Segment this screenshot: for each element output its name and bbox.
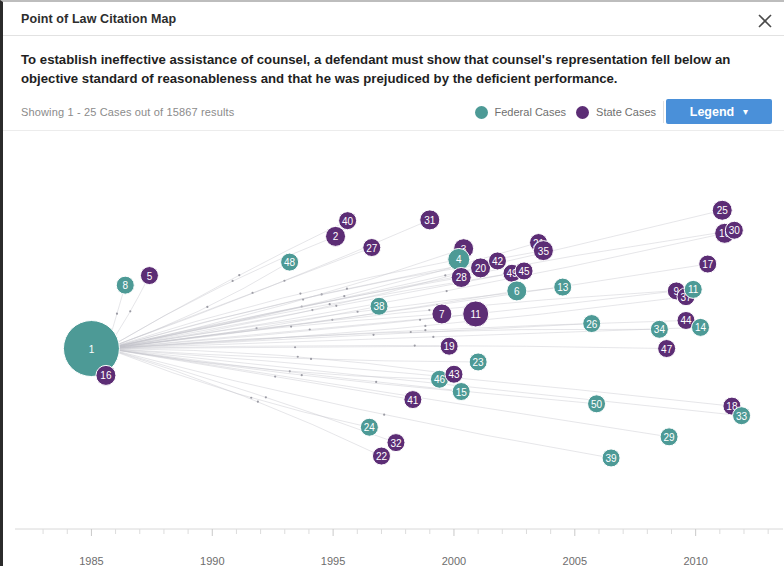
citation-bubble-circle[interactable] [281,253,299,271]
citation-bubble[interactable]: 34 [650,321,668,339]
citation-bubble[interactable]: 27 [363,239,381,257]
citation-bubble[interactable]: 8 [116,276,134,294]
citation-link-marker [424,325,426,327]
citation-bubble-circle[interactable] [370,298,388,316]
citation-link [107,220,430,349]
citation-bubble-circle[interactable] [445,366,463,384]
citation-bubble-circle[interactable] [140,267,158,285]
citation-bubble[interactable]: 29 [660,428,678,446]
citation-bubble-circle[interactable] [448,249,470,271]
citation-bubble[interactable]: 14 [691,319,709,337]
citation-link [107,260,459,349]
citation-link-marker [274,376,276,378]
citation-bubble[interactable]: 13 [554,278,572,296]
x-axis-tick-label: 1985 [79,555,103,566]
citation-bubble[interactable]: 47 [658,340,676,358]
x-axis-tick-label: 1995 [321,555,345,566]
citation-bubble-circle[interactable] [339,212,357,230]
citation-bubble[interactable]: 28 [451,268,471,288]
citation-bubble-circle[interactable] [471,258,491,278]
citation-bubble-circle[interactable] [451,268,471,288]
citation-bubble[interactable]: 43 [445,366,463,384]
citation-bubble[interactable]: 2 [326,227,346,247]
citation-link [107,349,669,437]
point-of-law-citation-map-dialog: Point of Law Citation Map To establish i… [0,0,784,566]
citation-link-marker [238,274,240,276]
citation-bubble-circle[interactable] [533,241,553,261]
citation-bubble-circle[interactable] [96,366,116,386]
citation-bubble-circle[interactable] [650,321,668,339]
citation-bubble[interactable]: 19 [440,337,458,355]
citation-bubble[interactable]: 48 [281,253,299,271]
citation-bubble-circle[interactable] [602,449,620,467]
citation-bubble-circle[interactable] [712,201,732,221]
citation-bubble[interactable]: 11 [684,281,702,299]
citation-bubble-circle[interactable] [515,262,533,280]
citation-bubble[interactable]: 35 [533,241,553,261]
citation-bubble-circle[interactable] [463,301,489,327]
citation-bubble[interactable]: 41 [404,391,422,409]
citation-bubble[interactable]: 7 [432,304,452,324]
citation-bubble-circle[interactable] [440,337,458,355]
citation-link-marker [410,331,412,333]
close-icon[interactable] [756,12,774,30]
citation-bubble-circle[interactable] [452,383,470,401]
citation-map-chart[interactable]: 1168548240273824223241314643719153428112… [3,131,784,566]
citation-bubble-circle[interactable] [469,353,487,371]
citation-bubble[interactable]: 26 [583,315,601,333]
citation-bubble[interactable]: 22 [372,447,390,465]
citation-bubble-circle[interactable] [432,304,452,324]
citation-bubble[interactable]: 40 [339,212,357,230]
citation-bubble[interactable]: 5 [140,267,158,285]
citation-bubble-circle[interactable] [583,315,601,333]
citation-bubble[interactable]: 45 [515,262,533,280]
citation-bubble-circle[interactable] [725,222,743,240]
citation-bubble-circle[interactable] [372,447,390,465]
citation-bubble[interactable]: 15 [452,383,470,401]
citation-bubble-circle[interactable] [660,428,678,446]
citation-bubble-circle[interactable] [588,395,606,413]
citation-bubble-circle[interactable] [363,239,381,257]
citation-bubble-circle[interactable] [699,255,717,273]
citation-link-marker [375,381,377,383]
citation-bubble[interactable]: 50 [588,395,606,413]
legend-swatches: Federal Cases State Cases [475,94,656,130]
citation-bubble-circle[interactable] [733,407,751,425]
citation-bubble[interactable]: 42 [488,252,506,270]
citation-bubble-circle[interactable] [507,281,527,301]
citation-bubble[interactable]: 33 [733,407,751,425]
citation-bubble[interactable]: 39 [602,449,620,467]
citation-bubble[interactable]: 38 [370,298,388,316]
citation-bubble[interactable]: 24 [360,419,378,437]
citation-link-marker [310,358,312,360]
x-axis-tick-label: 1990 [200,555,224,566]
citation-link-marker [419,319,421,321]
citation-bubble[interactable]: 11 [463,301,489,327]
citation-bubble[interactable]: 23 [469,353,487,371]
citation-bubble-circle[interactable] [326,227,346,247]
citation-bubble[interactable]: 16 [96,366,116,386]
citation-bubble[interactable]: 31 [420,210,440,230]
citation-bubble-circle[interactable] [691,319,709,337]
citation-bubble-circle[interactable] [404,391,422,409]
citation-map-plot[interactable]: 1168548240273824223241314643719153428112… [3,131,784,566]
citation-bubble-circle[interactable] [488,252,506,270]
citation-bubble-circle[interactable] [658,340,676,358]
citation-bubble-circle[interactable] [360,419,378,437]
citation-bubble-circle[interactable] [684,281,702,299]
citation-bubble[interactable]: 20 [471,258,491,278]
citation-bubble-circle[interactable] [387,434,405,452]
citation-bubble[interactable]: 30 [725,222,743,240]
legend-button[interactable]: Legend ▾ [666,99,772,124]
citation-bubble-circle[interactable] [116,276,134,294]
citation-bubble[interactable]: 25 [712,201,732,221]
citation-bubble[interactable]: 17 [699,255,717,273]
citation-bubble[interactable]: 6 [507,281,527,301]
citation-link-marker [356,311,358,313]
citation-bubble[interactable]: 32 [387,434,405,452]
citation-bubble-circle[interactable] [420,210,440,230]
legend-button-label: Legend [690,105,734,119]
citation-bubble-circle[interactable] [554,278,572,296]
citation-link-marker [265,396,267,398]
citation-bubble[interactable]: 4 [448,249,470,271]
